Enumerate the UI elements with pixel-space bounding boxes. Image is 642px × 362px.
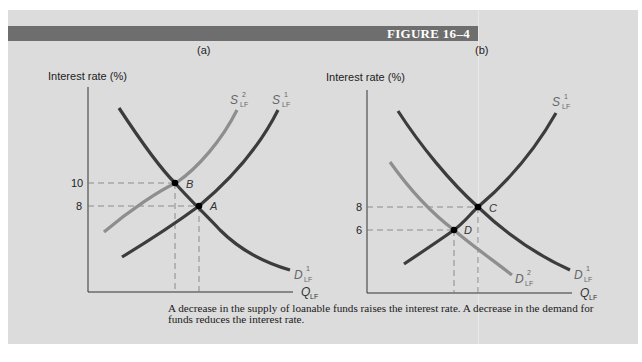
- label-s1: S 1 LF: [272, 91, 290, 108]
- svg-text:2: 2: [527, 269, 531, 276]
- point-d: [451, 227, 458, 234]
- curve-a-s1: [122, 110, 278, 257]
- svg-text:D: D: [515, 272, 524, 286]
- chart-b-xlabel: Q LF: [580, 286, 597, 301]
- svg-text:1: 1: [284, 91, 288, 98]
- svg-text:LF: LF: [310, 293, 318, 300]
- svg-text:D: D: [574, 268, 583, 282]
- curve-b-s1: [404, 113, 556, 264]
- chart-a: Interest rate (%) B A 10 8 S 2: [48, 70, 318, 300]
- label-s2: S 2 LF: [230, 91, 248, 108]
- label-b-s1: S 1 LF: [552, 93, 570, 110]
- svg-text:LF: LF: [282, 101, 290, 108]
- chart-b-tick-6: 6: [356, 224, 362, 236]
- chart-a-xlabel: Q LF: [301, 285, 318, 300]
- label-point-c: C: [489, 202, 497, 214]
- svg-text:1: 1: [306, 265, 310, 272]
- svg-text:Q: Q: [301, 285, 310, 299]
- svg-text:S: S: [552, 95, 560, 109]
- point-b: [172, 180, 179, 187]
- chart-a-tick-8: 8: [76, 200, 82, 212]
- point-a: [196, 203, 203, 210]
- svg-text:1: 1: [564, 93, 568, 100]
- svg-text:LF: LF: [240, 101, 248, 108]
- label-point-d: D: [464, 224, 472, 236]
- svg-text:LF: LF: [589, 294, 597, 301]
- chart-a-guides: [88, 183, 199, 292]
- chart-b-ylabel: Interest rate (%): [326, 71, 405, 83]
- label-point-b: B: [186, 178, 193, 190]
- svg-text:Q: Q: [580, 286, 589, 300]
- chart-b: Interest rate (%) C D 8 6 S 1 LF: [326, 71, 597, 301]
- svg-text:2: 2: [242, 91, 246, 98]
- label-point-a: A: [209, 200, 217, 212]
- label-a-d1: D 1 LF: [294, 265, 312, 283]
- svg-text:1: 1: [586, 265, 590, 272]
- svg-text:S: S: [230, 93, 238, 107]
- svg-text:LF: LF: [525, 280, 533, 287]
- curve-a-s2: [104, 110, 237, 232]
- chart-a-ylabel: Interest rate (%): [48, 70, 127, 82]
- svg-text:LF: LF: [304, 276, 312, 283]
- label-b-d1: D 1 LF: [574, 265, 592, 283]
- svg-text:D: D: [294, 268, 303, 282]
- label-b-d2: D 2 LF: [515, 269, 533, 287]
- point-c: [475, 204, 482, 211]
- svg-text:S: S: [272, 93, 280, 107]
- svg-text:LF: LF: [562, 103, 570, 110]
- chart-b-tick-8: 8: [356, 201, 362, 213]
- chart-a-tick-10: 10: [71, 177, 83, 189]
- svg-text:LF: LF: [584, 276, 592, 283]
- figure-caption: A decrease in the supply of loanable fun…: [168, 303, 608, 325]
